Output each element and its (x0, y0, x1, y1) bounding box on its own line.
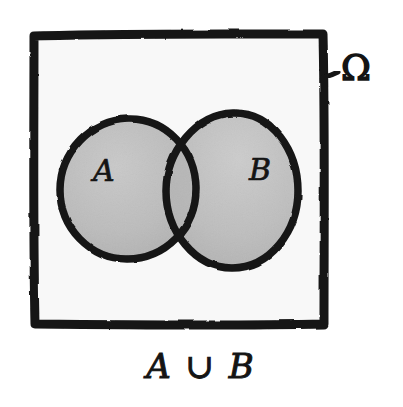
set-b-label: B (248, 152, 271, 187)
figure-caption: A ∪ B (143, 346, 256, 386)
omega-universal-set-symbol: Ω (341, 47, 371, 88)
venn-diagram-canvas: Ω A B A ∪ B (0, 0, 403, 407)
set-a-label: A (90, 153, 115, 188)
venn-diagram-figure: Ω A B A ∪ B (0, 0, 403, 407)
